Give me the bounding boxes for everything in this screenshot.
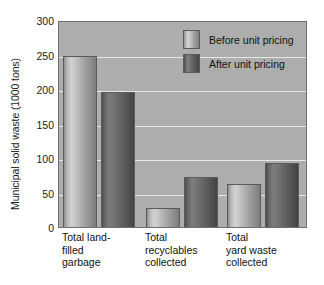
bar-before bbox=[227, 184, 261, 227]
bar-chart-figure: Municipal solid waste (1000 tons) 050100… bbox=[0, 0, 324, 285]
legend-label: Before unit pricing bbox=[209, 34, 294, 46]
x-axis-category-label-line: garbage bbox=[62, 256, 110, 269]
y-axis-tick-label: 300 bbox=[22, 15, 54, 27]
x-axis-category-label-line: Total bbox=[226, 231, 277, 244]
y-axis-tick-label: 150 bbox=[22, 119, 54, 131]
x-axis-category-label-line: filled bbox=[62, 244, 110, 257]
y-axis-tick-label: 0 bbox=[22, 222, 54, 234]
x-axis-category-label: Total land-filledgarbage bbox=[62, 231, 110, 269]
legend-label: After unit pricing bbox=[209, 58, 285, 70]
bar-after bbox=[265, 163, 299, 227]
y-axis-tick-label: 250 bbox=[22, 50, 54, 62]
y-axis-title: Municipal solid waste (1000 tons) bbox=[9, 34, 21, 234]
bar-after bbox=[101, 92, 135, 227]
y-axis-tick-label: 50 bbox=[22, 188, 54, 200]
x-axis-category-label: Totalyard wastecollected bbox=[226, 231, 277, 269]
bar-before bbox=[146, 208, 180, 227]
chart-legend: Before unit pricingAfter unit pricing bbox=[183, 29, 303, 77]
x-axis-category-label-line: Total land- bbox=[62, 231, 110, 244]
y-axis-tick-label: 200 bbox=[22, 84, 54, 96]
legend-item: After unit pricing bbox=[183, 53, 303, 74]
y-axis-tick-labels: 050100150200250300 bbox=[22, 0, 54, 285]
bar-after bbox=[184, 177, 218, 227]
legend-swatch-after bbox=[183, 54, 200, 73]
legend-item: Before unit pricing bbox=[183, 29, 303, 50]
x-axis-category-label-line: collected bbox=[145, 256, 198, 269]
x-axis-category-label: Totalrecyclablescollected bbox=[145, 231, 198, 269]
bar-before bbox=[63, 56, 97, 227]
x-axis-category-label-line: Total bbox=[145, 231, 198, 244]
x-axis-category-label-line: recyclables bbox=[145, 244, 198, 257]
y-axis-tick-label: 100 bbox=[22, 153, 54, 165]
x-axis-category-label-line: yard waste bbox=[226, 244, 277, 257]
x-axis-category-labels: Total land-filledgarbageTotalrecyclables… bbox=[58, 231, 307, 281]
legend-swatch-before bbox=[183, 30, 200, 49]
x-axis-category-label-line: collected bbox=[226, 256, 277, 269]
